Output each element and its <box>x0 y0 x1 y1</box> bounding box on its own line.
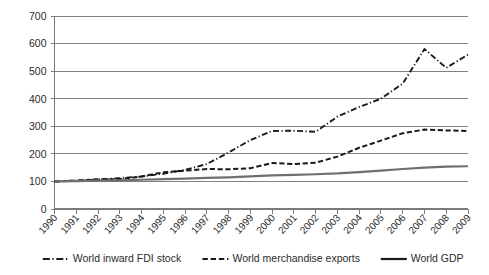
x-tick-label: 1999 <box>232 212 255 236</box>
legend-item: World merchandise exports <box>202 252 360 264</box>
legend-item: World inward FDI stock <box>43 252 182 264</box>
legend-label: World merchandise exports <box>232 252 360 264</box>
x-tick-label: 2002 <box>298 212 321 236</box>
y-tick-label: 0 <box>41 203 47 215</box>
x-tick-label: 2001 <box>276 212 299 236</box>
x-tick-label: 2006 <box>385 212 408 236</box>
x-tick-label: 2005 <box>363 212 386 236</box>
x-tick-label: 1993 <box>102 212 125 236</box>
x-tick-label: 2009 <box>450 212 473 236</box>
legend-item: World GDP <box>381 252 464 264</box>
x-tick-label: 1998 <box>211 212 234 236</box>
data-series-group <box>55 49 469 181</box>
y-tick-label: 700 <box>29 10 47 22</box>
legend-label: World inward FDI stock <box>73 252 182 264</box>
x-axis-tick-labels: 1990199119921993199419951996199719981999… <box>36 212 473 236</box>
x-tick-label: 1994 <box>123 212 146 236</box>
x-tick-label: 2007 <box>406 212 429 236</box>
y-tick-label: 600 <box>29 37 47 49</box>
gridlines-group <box>55 16 469 181</box>
series-line-world-inward-fdi-stock <box>55 49 469 181</box>
chart-container: 0100200300400500600700 19901991199219931… <box>0 0 489 275</box>
x-tick-label: 2008 <box>428 212 451 236</box>
chart-legend: World inward FDI stockWorld merchandise … <box>43 252 464 264</box>
x-tick-label: 2003 <box>319 212 342 236</box>
x-tick-label: 1990 <box>36 212 59 236</box>
y-tick-label: 100 <box>29 175 47 187</box>
series-line-world-merchandise-exports <box>55 130 469 182</box>
y-tick-label: 300 <box>29 120 47 132</box>
y-axis-tick-labels: 0100200300400500600700 <box>29 10 55 215</box>
x-tick-label: 1995 <box>145 212 168 236</box>
legend-label: World GDP <box>411 252 464 264</box>
x-tick-label: 1991 <box>58 212 81 236</box>
y-tick-label: 200 <box>29 148 47 160</box>
index-line-chart: 0100200300400500600700 19901991199219931… <box>0 0 489 275</box>
x-tick-label: 1997 <box>189 212 212 236</box>
x-tick-label: 1996 <box>167 212 190 236</box>
y-tick-label: 500 <box>29 65 47 77</box>
x-tick-label: 2000 <box>254 212 277 236</box>
x-tick-label: 2004 <box>341 212 364 236</box>
y-tick-label: 400 <box>29 93 47 105</box>
x-tick-label: 1992 <box>80 212 103 236</box>
